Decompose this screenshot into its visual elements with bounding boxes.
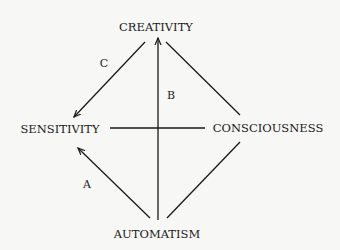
edge-label-c: C [100, 57, 108, 70]
node-automatism: AUTOMATISM [113, 227, 201, 241]
diagram-canvas: CREATIVITY SENSITIVITY CONSCIOUSNESS AUT… [0, 0, 340, 250]
edge-automatism-consciousness [167, 142, 240, 218]
edge-label-a: A [82, 178, 92, 191]
edge-creativity-consciousness [166, 42, 240, 115]
node-creativity: CREATIVITY [119, 20, 193, 34]
edge-label-b: B [167, 89, 175, 102]
node-sensitivity: SENSITIVITY [20, 122, 99, 136]
edge-c-line [74, 42, 145, 117]
node-consciousness: CONSCIOUSNESS [213, 121, 324, 135]
